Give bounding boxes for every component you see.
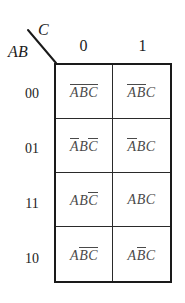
minterm-expression: ABC: [127, 137, 155, 154]
column-variable-label: C: [38, 22, 49, 38]
kmap-cell[interactable]: ABC: [113, 119, 170, 173]
kmap-cell[interactable]: ABC: [56, 119, 113, 173]
kmap-cell[interactable]: ABC: [113, 227, 170, 281]
minterm-expression: ABC: [127, 83, 155, 100]
minterm-expression: ABC: [127, 246, 155, 263]
row-header-01: 01: [14, 142, 50, 156]
minterm-expression: ABC: [70, 191, 98, 208]
column-header-0: 0: [54, 38, 113, 54]
kmap-cell[interactable]: ABC: [56, 173, 113, 227]
kmap-cell[interactable]: ABC: [113, 65, 170, 119]
row-header-11: 11: [14, 197, 50, 211]
kmap-cell[interactable]: ABC: [56, 227, 113, 281]
minterm-expression: ABC: [127, 193, 155, 207]
row-header-00: 00: [14, 87, 50, 101]
kmap-cell[interactable]: ABC: [56, 65, 113, 119]
row-header-10: 10: [14, 252, 50, 266]
kmap-cell[interactable]: ABC: [113, 173, 170, 227]
karnaugh-map: C AB 0 1 00 01 11 10 ABC ABC ABC ABC ABC…: [0, 0, 185, 303]
minterm-expression: ABC: [70, 246, 98, 263]
row-variable-label: AB: [8, 44, 28, 60]
column-header-1: 1: [113, 38, 172, 54]
minterm-expression: ABC: [70, 137, 98, 154]
minterm-expression: ABC: [70, 83, 98, 100]
kmap-grid: ABC ABC ABC ABC ABC ABC ABC ABC: [54, 63, 172, 283]
